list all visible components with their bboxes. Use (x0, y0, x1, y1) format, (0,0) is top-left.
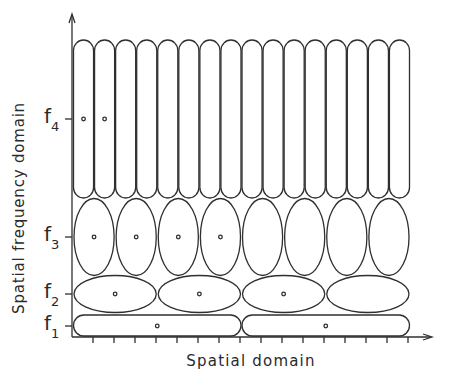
center-dot (324, 324, 328, 328)
row-label-f4: f4 (44, 104, 59, 134)
tile-f2-3 (327, 276, 409, 313)
axes (65, 14, 432, 343)
row-label-f1: f1 (44, 311, 59, 341)
center-dot (134, 235, 138, 239)
center-dot (155, 324, 159, 328)
center-dot (282, 292, 286, 296)
tile-f4-1 (95, 40, 115, 198)
tile-f4-11 (305, 40, 325, 198)
center-dot (219, 235, 223, 239)
tile-f4-14 (368, 40, 388, 198)
tile-f4-3 (137, 40, 157, 198)
tile-f3-0 (74, 199, 114, 276)
tile-f3-6 (327, 199, 367, 276)
center-dot (82, 117, 86, 121)
tile-f2-0 (74, 276, 156, 313)
tile-f4-8 (242, 40, 262, 198)
tile-f3-7 (369, 199, 409, 276)
tile-f1-1 (242, 315, 410, 336)
tile-f4-10 (284, 40, 304, 198)
tile-f4-2 (116, 40, 136, 198)
tile-f3-4 (243, 199, 283, 276)
center-dot (92, 235, 96, 239)
tile-f4-9 (263, 40, 283, 198)
tile-f4-15 (389, 40, 409, 198)
row-labels: f4f3f2f1 (44, 104, 59, 341)
x-axis-label: Spatial domain (186, 352, 315, 370)
tile-f4-13 (347, 40, 367, 198)
tile-f2-1 (158, 276, 240, 313)
center-dot (198, 292, 202, 296)
tiling-cells (74, 40, 410, 336)
tile-f4-6 (200, 40, 220, 198)
tile-f3-2 (158, 199, 198, 276)
y-axis-label: Spatial frequency domain (10, 102, 28, 314)
tile-f4-5 (179, 40, 199, 198)
tile-f4-0 (74, 40, 94, 198)
tile-f3-1 (116, 199, 156, 276)
center-dot (113, 292, 117, 296)
spatial-frequency-tiling-diagram: f4f3f2f1 Spatial domain Spatial frequenc… (0, 0, 450, 386)
tile-f4-12 (326, 40, 346, 198)
row-label-f2: f2 (44, 279, 59, 309)
tile-f4-4 (158, 40, 178, 198)
center-dot (103, 117, 107, 121)
tile-f3-3 (200, 199, 240, 276)
row-label-f3: f3 (44, 222, 59, 252)
tile-f2-2 (243, 276, 325, 313)
tile-f3-5 (285, 199, 325, 276)
tile-f1-0 (74, 315, 242, 336)
center-dot (177, 235, 181, 239)
tile-f4-7 (221, 40, 241, 198)
